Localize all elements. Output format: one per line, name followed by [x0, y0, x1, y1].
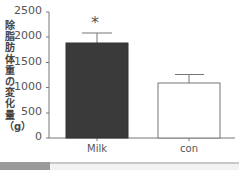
significance-asterisk: *: [91, 13, 99, 32]
bar-milk: [66, 33, 128, 138]
bottom-divider: [0, 162, 239, 170]
x-label-con: con: [159, 143, 219, 154]
bar-con: [158, 75, 220, 139]
x-label-milk: Milk: [67, 143, 127, 154]
